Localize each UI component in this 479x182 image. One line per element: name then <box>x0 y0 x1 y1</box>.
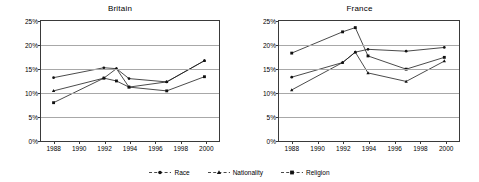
y-tick-mark <box>276 69 279 70</box>
x-tick-mark <box>395 141 396 144</box>
legend-item-religion: Religion <box>281 168 330 177</box>
y-tick-mark <box>38 117 41 118</box>
data-point-religion <box>128 86 131 89</box>
x-tick-mark <box>318 141 319 144</box>
y-axis-tick-label: 0% <box>29 138 38 145</box>
series-layer-france <box>279 21 459 141</box>
legend-label-religion: Religion <box>306 169 330 176</box>
chart-title-france: France <box>240 4 479 13</box>
data-point-race <box>367 48 370 51</box>
x-axis-tick-label: 1994 <box>123 145 137 152</box>
plot-area-britain: 0%5%10%15%20%25%198819901992199419961998… <box>40 20 220 142</box>
y-axis-tick-label: 15% <box>263 66 276 73</box>
data-point-race <box>128 77 131 80</box>
gridline <box>279 45 459 46</box>
legend-marker-triangle-icon <box>208 168 230 177</box>
data-point-religion <box>290 52 293 55</box>
data-point-religion <box>165 89 168 92</box>
x-axis-tick-label: 1992 <box>97 145 111 152</box>
data-point-religion <box>341 30 344 33</box>
data-point-religion <box>354 26 357 29</box>
y-axis-tick-label: 0% <box>267 138 276 145</box>
legend-item-nationality: Nationality <box>208 168 263 177</box>
y-tick-mark <box>38 45 41 46</box>
x-tick-mark <box>181 141 182 144</box>
chart-legend: Race Nationality Religion <box>0 162 479 182</box>
y-axis-tick-label: 15% <box>25 66 38 73</box>
data-point-religion <box>115 80 118 83</box>
data-point-religion <box>367 55 370 58</box>
x-tick-mark <box>105 141 106 144</box>
x-tick-mark <box>54 141 55 144</box>
x-axis-tick-label: 1996 <box>148 145 162 152</box>
data-point-religion <box>102 77 105 80</box>
x-axis-tick-label: 1996 <box>387 145 401 152</box>
legend-label-nationality: Nationality <box>233 169 263 176</box>
chart-title-britain: Britain <box>0 4 240 13</box>
y-axis-tick-label: 5% <box>29 114 38 121</box>
gridline <box>41 45 219 46</box>
data-point-race <box>52 76 55 79</box>
data-point-religion <box>203 75 206 78</box>
legend-marker-circle-icon <box>149 168 171 177</box>
y-tick-mark <box>276 45 279 46</box>
series-line-nationality <box>292 52 445 90</box>
gridline <box>279 69 459 70</box>
y-axis-tick-label: 10% <box>263 90 276 97</box>
data-point-nationality <box>443 59 446 62</box>
x-tick-mark <box>343 141 344 144</box>
x-tick-mark <box>446 141 447 144</box>
x-axis-tick-label: 1990 <box>310 145 324 152</box>
charts-figure: Britain 0%5%10%15%20%25%1988199019921994… <box>0 0 479 182</box>
plot-area-france: 0%5%10%15%20%25%198819901992199419961998… <box>278 20 460 142</box>
gridline <box>279 93 459 94</box>
x-tick-mark <box>206 141 207 144</box>
x-axis-tick-label: 1990 <box>72 145 86 152</box>
y-tick-mark <box>276 21 279 22</box>
series-line-religion <box>54 77 205 103</box>
x-axis-tick-label: 2000 <box>199 145 213 152</box>
chart-panel-britain: Britain 0%5%10%15%20%25%1988199019921994… <box>0 0 240 160</box>
x-axis-tick-label: 1992 <box>336 145 350 152</box>
x-axis-tick-label: 2000 <box>439 145 453 152</box>
data-point-race <box>405 50 408 53</box>
x-tick-mark <box>369 141 370 144</box>
gridline <box>41 69 219 70</box>
legend-marker-square-icon <box>281 168 303 177</box>
y-tick-mark <box>276 93 279 94</box>
gridline <box>41 93 219 94</box>
x-tick-mark <box>130 141 131 144</box>
y-axis-tick-label: 10% <box>25 90 38 97</box>
x-axis-tick-label: 1988 <box>285 145 299 152</box>
gridline <box>279 117 459 118</box>
x-axis-tick-label: 1994 <box>362 145 376 152</box>
gridline <box>41 117 219 118</box>
data-point-religion <box>52 101 55 104</box>
y-tick-mark <box>276 141 279 142</box>
y-axis-tick-label: 25% <box>25 18 38 25</box>
legend-label-race: Race <box>174 169 189 176</box>
y-axis-tick-label: 20% <box>25 42 38 49</box>
y-tick-mark <box>38 21 41 22</box>
x-axis-tick-label: 1998 <box>174 145 188 152</box>
x-tick-mark <box>420 141 421 144</box>
y-tick-mark <box>38 93 41 94</box>
y-tick-mark <box>38 69 41 70</box>
data-point-race <box>290 76 293 79</box>
data-point-religion <box>443 56 446 59</box>
x-tick-mark <box>79 141 80 144</box>
y-tick-mark <box>276 117 279 118</box>
chart-panel-france: France 0%5%10%15%20%25%19881990199219941… <box>240 0 479 160</box>
x-axis-tick-label: 1998 <box>413 145 427 152</box>
y-axis-tick-label: 20% <box>263 42 276 49</box>
y-axis-tick-label: 5% <box>267 114 276 121</box>
series-layer-britain <box>41 21 219 141</box>
x-tick-mark <box>292 141 293 144</box>
x-axis-tick-label: 1988 <box>46 145 60 152</box>
y-axis-tick-label: 25% <box>263 18 276 25</box>
legend-item-race: Race <box>149 168 189 177</box>
data-point-race <box>443 46 446 49</box>
y-tick-mark <box>38 141 41 142</box>
x-tick-mark <box>155 141 156 144</box>
